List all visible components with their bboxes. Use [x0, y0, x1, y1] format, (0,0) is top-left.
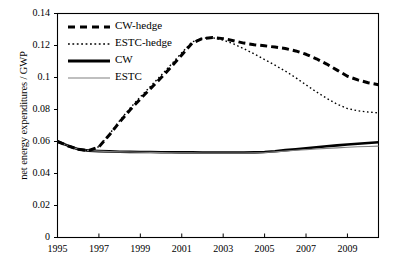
legend-swatch-cw-hedge — [66, 19, 112, 31]
legend-item-cw-hedge: CW-hedge — [66, 16, 216, 33]
y-tick-label: 0.14 — [8, 7, 50, 18]
y-tick-label: 0.08 — [8, 103, 50, 114]
legend-swatch-estc-hedge — [66, 36, 112, 48]
x-tick-label: 2005 — [245, 243, 285, 254]
x-tick-label: 1995 — [38, 243, 78, 254]
legend-label-cw-hedge: CW-hedge — [112, 19, 162, 31]
y-tick-label: 0.04 — [8, 167, 50, 178]
y-tick-label: 0.1 — [8, 71, 50, 82]
y-tick-label: 0.06 — [8, 135, 50, 146]
legend-label-estc-hedge: ESTC-hedge — [112, 36, 172, 48]
x-tick-label: 2009 — [327, 243, 367, 254]
chart-figure: net energy expenditures / GWP 00.020.040… — [0, 0, 396, 273]
legend-label-estc: ESTC — [112, 70, 142, 82]
chart-legend: CW-hedge ESTC-hedge CW ESTC — [66, 16, 216, 84]
x-tick-label: 1999 — [120, 243, 160, 254]
legend-item-cw: CW — [66, 50, 216, 67]
y-tick-label: 0.02 — [8, 199, 50, 210]
legend-item-estc: ESTC — [66, 67, 216, 84]
legend-swatch-cw — [66, 53, 112, 65]
x-tick-label: 2003 — [203, 243, 243, 254]
legend-item-estc-hedge: ESTC-hedge — [66, 33, 216, 50]
y-tick-label: 0 — [8, 231, 50, 242]
x-tick-label: 1997 — [79, 243, 119, 254]
legend-label-cw: CW — [112, 53, 133, 65]
legend-swatch-estc — [66, 70, 112, 82]
x-tick-label: 2001 — [162, 243, 202, 254]
x-tick-label: 2007 — [286, 243, 326, 254]
y-tick-label: 0.12 — [8, 39, 50, 50]
